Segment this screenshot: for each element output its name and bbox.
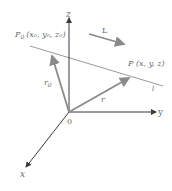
direction-arrow	[89, 34, 124, 44]
direction-label: L	[102, 26, 108, 35]
p-label: P (x, y, z)	[127, 59, 165, 68]
z-axis-label: z	[65, 9, 71, 19]
vector-r0	[52, 56, 69, 112]
y-axis-label: y	[157, 107, 164, 117]
vector-r	[69, 78, 129, 112]
line-label: l	[152, 85, 154, 93]
x-axis-label: x	[20, 169, 25, 179]
r0-label: r0	[44, 78, 52, 88]
p0-label: P0(x₀, y₀, z₀)	[14, 30, 66, 40]
r-label: r	[101, 95, 106, 104]
x-axis	[26, 112, 69, 167]
origin-label: 0	[67, 117, 72, 126]
line-3d-diagram: z y x 0 P0(x₀, y₀, z₀) P (x, y, z) r0 r …	[0, 0, 172, 191]
